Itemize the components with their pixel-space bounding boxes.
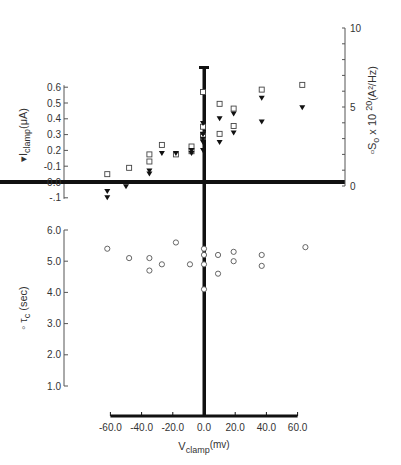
- x-tick-label: 40.0: [257, 422, 277, 433]
- open-square-marker: [127, 165, 132, 170]
- open-circle-marker: [187, 262, 192, 267]
- filled-triangle-marker: [231, 131, 237, 136]
- x-tick-label: 60.0: [288, 422, 308, 433]
- open-square-marker: [147, 152, 152, 157]
- open-circle-marker: [259, 252, 264, 257]
- open-square-marker: [217, 101, 222, 106]
- y-tau-tick-label: 2.0: [47, 349, 61, 360]
- filled-triangle-marker: [217, 116, 223, 121]
- y-right-tick-label: 10: [350, 23, 362, 34]
- y-left-tick-label: 0.6: [47, 82, 61, 93]
- filled-triangle-marker: [231, 112, 237, 117]
- open-circle-marker: [201, 252, 206, 257]
- filled-triangle-marker: [104, 195, 110, 200]
- x-tick-label: 20.0: [225, 422, 245, 433]
- y-right-tick-label: 0: [350, 181, 356, 192]
- open-circle-marker: [259, 263, 264, 268]
- open-circle-marker: [231, 259, 236, 264]
- open-circle-marker: [105, 246, 110, 251]
- y-left-tick-label: 0.4: [47, 113, 61, 124]
- filled-triangle-marker: [146, 172, 152, 177]
- x-tick-label: -40.0: [130, 422, 153, 433]
- y-left-axis-title: ▾Iclamp(μA): [17, 108, 32, 162]
- x-tick-label: -20.0: [161, 422, 184, 433]
- filled-triangle-marker: [259, 119, 265, 124]
- filled-triangle-marker: [123, 184, 129, 189]
- open-circle-marker: [159, 262, 164, 267]
- open-circle-marker: [147, 255, 152, 260]
- open-square-marker: [300, 82, 305, 87]
- y-tau-tick-label: 3.0: [47, 318, 61, 329]
- y-left-tick-label: 0.3: [47, 129, 61, 140]
- open-circle-marker: [303, 245, 308, 250]
- open-square-marker: [201, 89, 206, 94]
- y-tau-tick-label: 6.0: [47, 225, 61, 236]
- open-square-marker: [147, 159, 152, 164]
- open-circle-marker: [201, 262, 206, 267]
- x-tick-label: 0.0: [197, 422, 211, 433]
- filled-triangle-marker: [217, 140, 223, 145]
- data-series: [104, 82, 308, 292]
- y-left-tick-label: 0.2: [47, 145, 61, 156]
- chart-canvas: -.10.0-0.10.20.30.40.50.605101.02.03.04.…: [0, 0, 401, 465]
- y-right-tick-label: 5: [350, 102, 356, 113]
- open-circle-marker: [173, 240, 178, 245]
- y-tau-tick-label: 4.0: [47, 287, 61, 298]
- x-tick-label: -60.0: [99, 422, 122, 433]
- open-circle-marker: [215, 271, 220, 276]
- open-circle-marker: [147, 268, 152, 273]
- open-square-marker: [105, 172, 110, 177]
- filled-triangle-marker: [259, 96, 265, 101]
- y-left-tick-label: 0.5: [47, 98, 61, 109]
- y-tau-tick-label: 1.0: [47, 381, 61, 392]
- filled-triangle-marker: [104, 189, 110, 194]
- open-circle-marker: [231, 249, 236, 254]
- open-circle-marker: [201, 287, 206, 292]
- axis-labels: -.10.0-0.10.20.30.40.50.605101.02.03.04.…: [17, 23, 381, 455]
- y-tau-tick-label: 5.0: [47, 256, 61, 267]
- open-circle-marker: [201, 246, 206, 251]
- open-square-marker: [159, 142, 164, 147]
- y-left-tick-label: 0.0: [47, 177, 61, 188]
- open-square-marker: [217, 131, 222, 136]
- open-square-marker: [259, 87, 264, 92]
- x-axis-title: Vclamp(mv): [178, 439, 229, 455]
- y-right-axis-title: ▫So x 10 20(A²/Hz): [364, 66, 381, 154]
- y-left-tick-label: -0.1: [44, 161, 62, 172]
- y-left-tick-label: -.1: [49, 192, 61, 203]
- open-square-marker: [231, 123, 236, 128]
- open-square-marker: [231, 106, 236, 111]
- open-circle-marker: [127, 255, 132, 260]
- filled-triangle-marker: [299, 105, 305, 110]
- open-circle-marker: [215, 252, 220, 257]
- y-tau-axis-title: ◦ τc (sec): [17, 286, 32, 329]
- filled-triangle-marker: [159, 151, 165, 156]
